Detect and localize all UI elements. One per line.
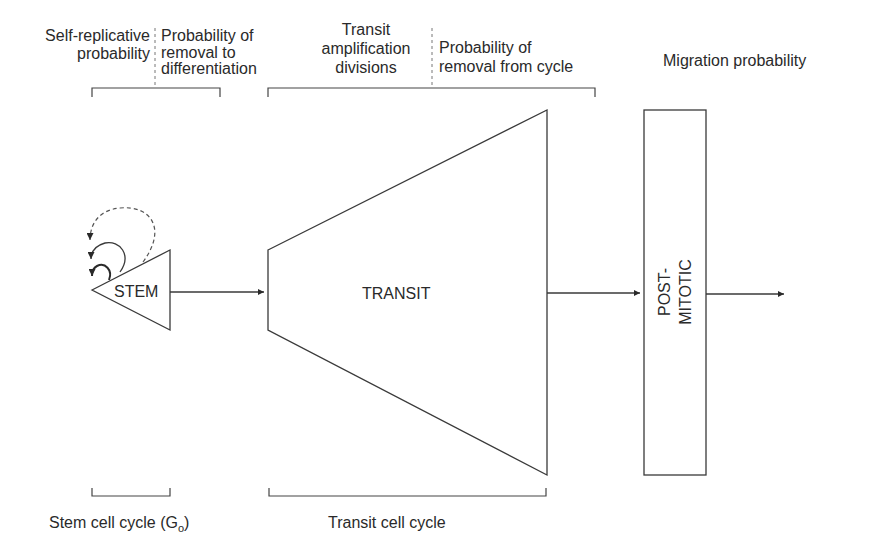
label-transit-cell-cycle: Transit cell cycle bbox=[328, 514, 446, 532]
solid-loop-inner bbox=[92, 265, 110, 280]
label-transit-amplification: Transit amplification divisions bbox=[305, 20, 427, 77]
bracket-transit-bottom bbox=[269, 488, 546, 496]
postmitotic-label-1: POST- bbox=[656, 268, 673, 316]
bracket-transit-top bbox=[268, 88, 595, 97]
label-stem-cell-cycle: Stem cell cycle (Go) bbox=[49, 514, 189, 533]
bracket-stem-top bbox=[92, 88, 220, 97]
bracket-stem-bottom bbox=[92, 488, 170, 496]
diagram-canvas: POST- MITOTIC bbox=[0, 0, 869, 550]
label-self-replicative: Self-replicative probability bbox=[0, 27, 150, 63]
label-migration-probability: Migration probability bbox=[663, 52, 806, 70]
label-removal-to-differentiation: Probability of removal to differentiatio… bbox=[161, 27, 257, 77]
dashed-loop bbox=[90, 208, 155, 262]
postmitotic-box bbox=[644, 110, 706, 475]
postmitotic-label-2: MITOTIC bbox=[677, 259, 694, 324]
label-removal-from-cycle: Probability of removal from cycle bbox=[439, 38, 573, 76]
transit-label: TRANSIT bbox=[362, 285, 430, 303]
stem-label: STEM bbox=[114, 283, 158, 301]
